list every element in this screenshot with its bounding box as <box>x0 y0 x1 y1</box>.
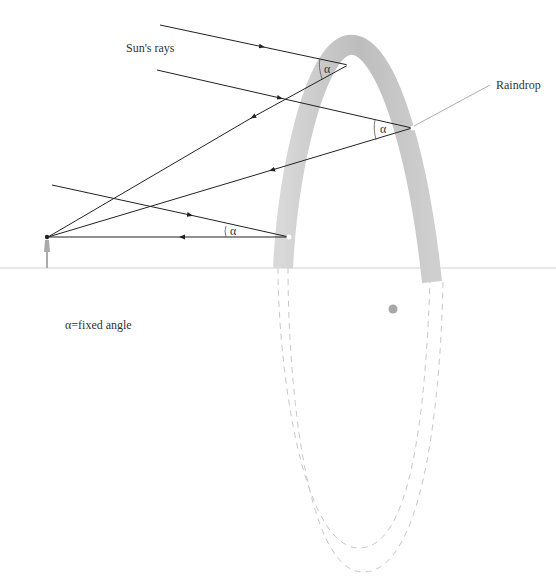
viewer-person-icon <box>44 235 50 268</box>
raindrop-1 <box>347 63 352 68</box>
rainbow-arc <box>283 45 432 282</box>
alpha-label-3: α <box>230 224 237 238</box>
antisolar-point-dot <box>389 305 398 314</box>
legend-fixed-angle: α=fixed angle <box>65 318 132 333</box>
rainbow-formation-diagram: α α α <box>0 0 556 588</box>
raindrop-2 <box>411 126 416 131</box>
angle-arc-2 <box>374 120 376 140</box>
sun-ray-3 <box>48 185 289 237</box>
sun-ray-2 <box>48 70 412 237</box>
raindrop-label: Raindrop <box>496 78 541 93</box>
angle-arc-3 <box>225 226 226 237</box>
dashed-lower-circle <box>278 268 443 572</box>
alpha-label-1: α <box>324 62 331 76</box>
raindrop-leader-line <box>414 85 490 126</box>
alpha-label-2: α <box>380 122 387 136</box>
raindrop-3 <box>287 235 292 240</box>
sun-rays-label: Sun's rays <box>126 41 175 56</box>
